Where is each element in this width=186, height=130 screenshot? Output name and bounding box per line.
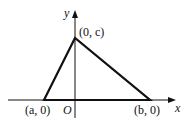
y-axis-arrow-icon <box>72 10 78 18</box>
vertex-label-apex: (0, c) <box>79 25 104 39</box>
y-axis-label: y <box>63 6 70 20</box>
triangle-diagram: y x O (0, c) (a, 0) (b, 0) <box>0 0 186 130</box>
triangle <box>44 38 150 100</box>
vertex-label-left: (a, 0) <box>25 103 50 117</box>
origin-label: O <box>63 103 72 117</box>
vertex-label-right: (b, 0) <box>134 103 160 117</box>
x-axis-label: x <box>174 101 181 115</box>
